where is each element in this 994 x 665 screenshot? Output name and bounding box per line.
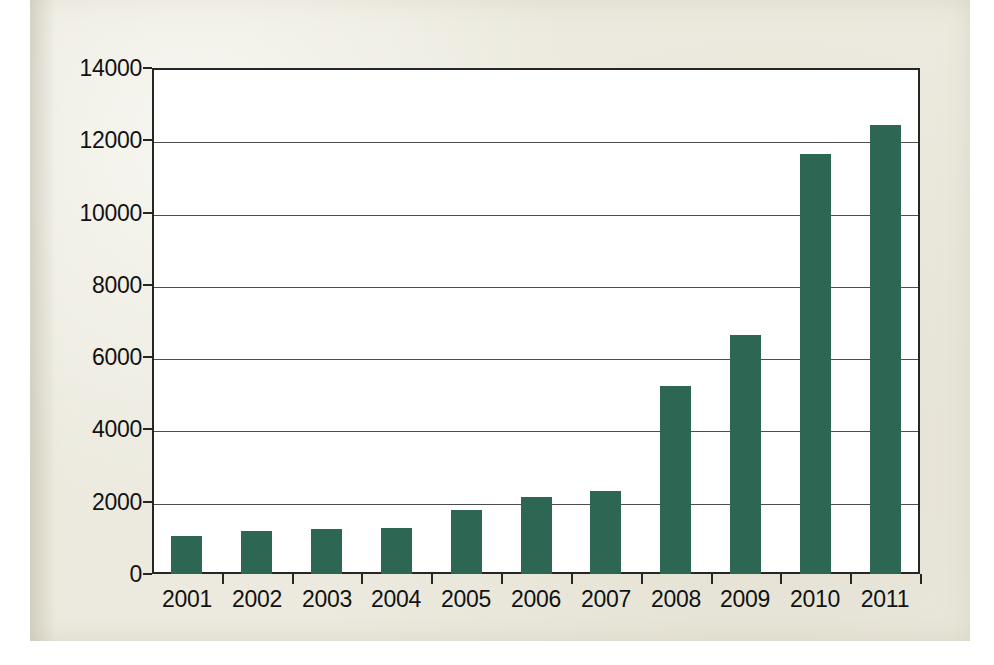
y-tick-mark [143, 356, 152, 358]
x-tick-mark [361, 574, 363, 584]
x-axis-tick-label: 2005 [426, 586, 506, 613]
x-axis-tick-label: 2011 [845, 586, 925, 613]
x-axis-tick-label: 2004 [356, 586, 436, 613]
bar [241, 531, 272, 574]
x-tick-mark [571, 574, 573, 584]
x-axis-tick-label: 2003 [287, 586, 367, 613]
bar [171, 536, 202, 574]
x-axis-tick-label: 2001 [147, 586, 227, 613]
x-axis-tick-label: 2002 [217, 586, 297, 613]
y-tick-mark [143, 139, 152, 141]
x-tick-mark [641, 574, 643, 584]
x-axis-tick-label: 2009 [705, 586, 785, 613]
x-axis-tick-label: 2007 [566, 586, 646, 613]
bars-layer: 2001200220032004200520062007200820092010… [0, 0, 994, 665]
x-tick-mark [431, 574, 433, 584]
y-tick-mark [143, 501, 152, 503]
x-tick-mark [850, 574, 852, 584]
x-tick-mark [292, 574, 294, 584]
x-tick-mark [501, 574, 503, 584]
x-tick-mark [222, 574, 224, 584]
bar [800, 154, 831, 574]
bar [590, 491, 621, 574]
bar [311, 529, 342, 574]
x-tick-mark [711, 574, 713, 584]
y-tick-mark [143, 212, 152, 214]
x-axis-tick-label: 2010 [775, 586, 855, 613]
x-axis-tick-label: 2008 [636, 586, 716, 613]
bar [730, 335, 761, 574]
bar [870, 125, 901, 574]
y-tick-mark [143, 284, 152, 286]
x-tick-mark [780, 574, 782, 584]
bar [381, 528, 412, 574]
x-axis-tick-label: 2006 [496, 586, 576, 613]
bar [660, 386, 691, 574]
y-tick-mark [143, 67, 152, 69]
bar-chart-figure: 02000400060008000100001200014000 2001200… [0, 0, 994, 665]
bar [521, 497, 552, 574]
y-tick-mark [143, 573, 152, 575]
x-tick-mark [920, 574, 922, 584]
bar [451, 510, 482, 574]
y-tick-mark [143, 428, 152, 430]
scanned-page: 02000400060008000100001200014000 2001200… [0, 0, 994, 665]
